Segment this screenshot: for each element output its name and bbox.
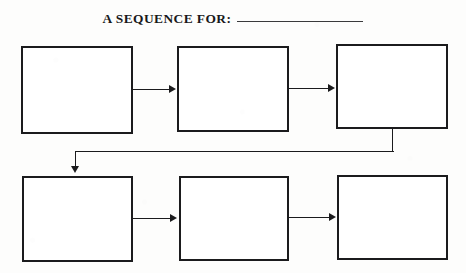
connector-3-to-4-arrowhead-icon xyxy=(71,166,79,173)
connector-3-to-4-drop-shaft xyxy=(392,128,393,152)
worksheet-page: A SEQUENCE FOR: xyxy=(0,0,466,273)
sequence-box-6[interactable] xyxy=(337,175,448,260)
connector-2-to-3-shaft xyxy=(289,88,328,89)
title-fill-in-blank[interactable] xyxy=(237,10,363,22)
connector-4-to-5-shaft xyxy=(133,218,171,219)
sequence-box-5[interactable] xyxy=(179,176,289,261)
connector-1-to-2-shaft xyxy=(133,89,170,90)
sequence-box-3[interactable] xyxy=(336,44,448,129)
connector-1-to-2-arrowhead-icon xyxy=(169,85,176,93)
connector-2-to-3-arrowhead-icon xyxy=(328,84,335,92)
sequence-box-4[interactable] xyxy=(22,176,133,262)
connector-5-to-6-arrowhead-icon xyxy=(329,213,336,221)
sequence-box-2[interactable] xyxy=(177,46,289,132)
connector-3-to-4-descend-shaft xyxy=(75,151,76,166)
page-title-label: A SEQUENCE FOR: xyxy=(103,11,232,27)
connector-3-to-4-cross-shaft xyxy=(75,151,394,152)
connector-5-to-6-shaft xyxy=(289,217,329,218)
sequence-box-1[interactable] xyxy=(21,46,133,134)
page-title: A SEQUENCE FOR: xyxy=(0,11,466,31)
connector-4-to-5-arrowhead-icon xyxy=(170,214,177,222)
